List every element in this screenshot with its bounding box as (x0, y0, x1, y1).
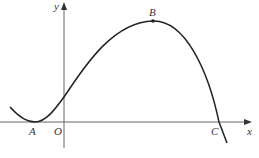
point-a-label: A (28, 125, 36, 137)
y-axis-label: y (53, 0, 59, 12)
point-b-marker (151, 19, 155, 23)
function-graph: y x O A B C (0, 0, 259, 158)
point-c-label: C (211, 125, 219, 137)
y-axis-arrow-icon (61, 2, 67, 10)
point-b-label: B (149, 6, 156, 18)
x-axis-label: x (246, 125, 252, 137)
origin-label: O (54, 125, 62, 137)
function-curve (10, 21, 227, 143)
